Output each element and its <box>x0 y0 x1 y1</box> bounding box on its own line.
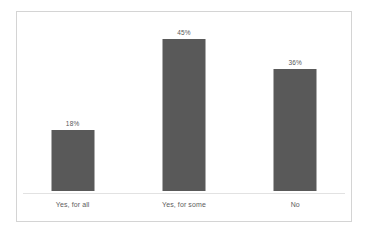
category-label-1: Yes, for some <box>128 201 239 208</box>
bar-chart-figure: 18% 45% 36% Yes, for all Yes, for some N… <box>0 0 370 232</box>
bar-0[interactable] <box>51 130 94 191</box>
bar-value-label-1: 45% <box>177 29 191 36</box>
bar-value-label-2: 36% <box>288 59 302 66</box>
bar-group-2: 36% <box>240 0 351 191</box>
chart-frame: 18% 45% 36% Yes, for all Yes, for some N… <box>16 11 352 222</box>
category-label-0: Yes, for all <box>17 201 128 208</box>
bar-value-label-0: 18% <box>66 120 80 127</box>
bar-group-1: 45% <box>128 0 239 191</box>
bar-2[interactable] <box>274 69 317 191</box>
bar-1[interactable] <box>162 39 205 191</box>
category-label-2: No <box>240 201 351 208</box>
bar-group-0: 18% <box>17 0 128 191</box>
plot-area: 18% 45% 36% Yes, for all Yes, for some N… <box>17 12 351 221</box>
category-axis-line <box>23 193 345 194</box>
